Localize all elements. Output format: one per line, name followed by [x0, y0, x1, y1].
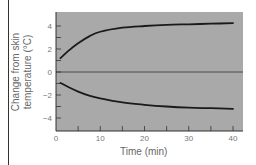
- y-axis-label-line-2: temperature (°C): [22, 12, 34, 132]
- y-tick-label: 4: [48, 22, 53, 31]
- y-tick-label: −2: [43, 91, 53, 100]
- x-tick-label: 40: [229, 134, 238, 143]
- x-tick-label: 0: [54, 134, 59, 143]
- y-axis-label: Change from skin temperature (°C): [10, 12, 40, 132]
- x-tick-label: 10: [96, 134, 105, 143]
- y-axis-label-line-1: Change from skin: [10, 12, 22, 132]
- plot-area: [56, 12, 243, 131]
- x-axis-label: Time (min): [120, 146, 167, 157]
- x-tick-label: 20: [140, 134, 149, 143]
- y-tick-label: 2: [48, 45, 53, 54]
- y-tick-label: 0: [48, 68, 53, 77]
- x-tick-label: 30: [184, 134, 193, 143]
- y-tick-label: −4: [43, 114, 53, 123]
